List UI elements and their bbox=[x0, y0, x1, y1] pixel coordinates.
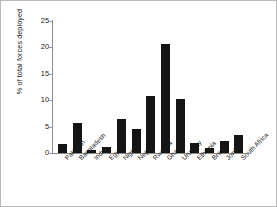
y-tick-mark-20 bbox=[49, 47, 52, 48]
y-tick-label-5: 5 bbox=[29, 123, 49, 130]
bar-pakistan bbox=[58, 144, 67, 153]
plot-area: % of total forces deployed 0510152025 Pa… bbox=[1, 1, 277, 207]
y-tick-label-20: 20 bbox=[29, 43, 49, 50]
y-tick-label-0: 0 bbox=[29, 149, 49, 156]
x-tick-label-south-africa: South Africa bbox=[240, 132, 270, 162]
y-tick-mark-0 bbox=[49, 153, 52, 154]
y-tick-label-25: 25 bbox=[29, 17, 49, 24]
y-tick-mark-25 bbox=[49, 21, 52, 22]
y-tick-label-10: 10 bbox=[29, 96, 49, 103]
y-tick-mark-10 bbox=[49, 100, 52, 101]
chart-figure: % of total forces deployed 0510152025 Pa… bbox=[0, 0, 277, 207]
bar-ghana bbox=[161, 44, 170, 153]
y-axis-line bbox=[52, 20, 53, 154]
y-tick-label-15: 15 bbox=[29, 70, 49, 77]
y-tick-mark-15 bbox=[49, 74, 52, 75]
y-axis-title: % of total forces deployed bbox=[15, 0, 24, 118]
y-tick-mark-5 bbox=[49, 127, 52, 128]
